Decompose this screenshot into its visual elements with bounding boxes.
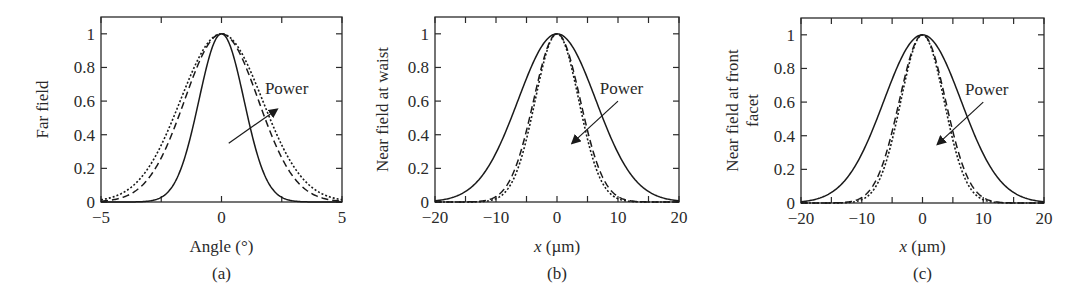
x-tick-label: −10	[483, 208, 510, 227]
curve-solid	[801, 35, 1044, 202]
x-tick-label: −20	[422, 208, 449, 227]
x-axis-label: Angle (°)	[190, 237, 254, 256]
x-tick-label: 0	[918, 209, 927, 228]
y-tick-label: 0.2	[408, 159, 429, 178]
curve-dashed	[435, 34, 679, 202]
y-tick-label: 0.8	[408, 58, 429, 77]
y-axis-label: Near field at front	[723, 49, 742, 172]
panel-a: 00.20.40.60.81−505PowerAngle (°)(a)Far f…	[33, 17, 346, 283]
curve-dotted	[801, 35, 1044, 203]
power-annotation: Power	[265, 79, 309, 98]
y-tick-label: 0.4	[74, 126, 96, 145]
y-tick-label: 0.6	[74, 92, 95, 111]
x-tick-label: 10	[610, 208, 627, 227]
power-annotation: Power	[965, 80, 1009, 99]
x-tick-label: 10	[975, 209, 992, 228]
y-tick-label: 0.2	[774, 160, 795, 179]
x-tick-label: 0	[553, 208, 562, 227]
figure: 00.20.40.60.81−505PowerAngle (°)(a)Far f…	[0, 0, 1091, 306]
x-tick-label: −5	[92, 208, 110, 227]
y-tick-label: 0.8	[74, 58, 95, 77]
x-axis-label: x (µm)	[533, 237, 580, 256]
plot-frame	[101, 17, 342, 202]
curve-dashed	[801, 35, 1044, 203]
panel-c: 00.20.40.60.81−20−1001020Powerx (µm)(c)N…	[723, 18, 1053, 283]
x-tick-label: −10	[848, 209, 875, 228]
y-tick-label: 0.2	[74, 159, 95, 178]
y-axis-label: facet	[743, 94, 762, 127]
panel-label-a: (a)	[212, 264, 231, 283]
plot-frame	[435, 17, 679, 202]
y-tick-label: 1	[87, 25, 96, 44]
curve-solid	[101, 34, 342, 202]
curve-dotted	[101, 34, 342, 200]
y-tick-label: 1	[421, 25, 430, 44]
panel-b: 00.20.40.60.81−20−1001020Powerx (µm)(b)N…	[373, 17, 688, 283]
panel-label-c: (c)	[913, 264, 932, 283]
y-tick-label: 0.4	[408, 126, 430, 145]
x-tick-label: 20	[1036, 209, 1053, 228]
y-tick-label: 0.6	[408, 92, 429, 111]
curve-dotted	[435, 34, 679, 202]
y-tick-label: 0.8	[774, 59, 795, 78]
curve-dashed	[101, 34, 342, 201]
y-tick-label: 1	[787, 26, 796, 45]
y-tick-label: 0.4	[774, 127, 796, 146]
x-tick-label: 0	[217, 208, 226, 227]
power-annotation: Power	[600, 79, 644, 98]
x-axis-label: x (µm)	[898, 237, 945, 256]
curve-solid	[435, 34, 679, 201]
plot-frame	[801, 18, 1044, 203]
x-tick-label: 20	[671, 208, 688, 227]
x-tick-label: 5	[338, 208, 347, 227]
y-axis-label: Near field at waist	[373, 47, 392, 172]
panel-label-b: (b)	[547, 264, 567, 283]
x-tick-label: −20	[788, 209, 815, 228]
y-axis-label: Far field	[33, 80, 52, 139]
y-tick-label: 0.6	[774, 93, 795, 112]
